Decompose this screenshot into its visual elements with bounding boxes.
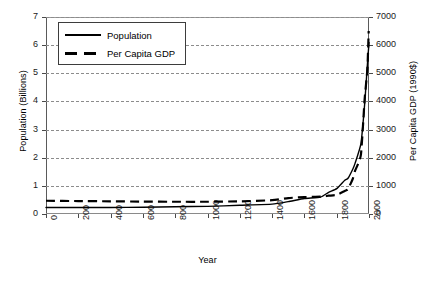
legend-label-per-capita-gdp: Per Capita GDP	[107, 48, 175, 59]
y-tick-right-label-7000: 7000	[376, 12, 410, 21]
chart-figure: Population (Billions) Per Capita GDP (19…	[0, 0, 435, 282]
x-tick-label-2000: 2000	[373, 200, 382, 220]
legend-item-population: Population	[65, 27, 152, 43]
chart-legend: Population Per Capita GDP	[58, 22, 186, 65]
x-tick-800	[175, 214, 176, 218]
y-tick-right-7000	[369, 17, 373, 18]
y-tick-left-label-0: 0	[8, 209, 38, 218]
x-axis-title: Year	[46, 255, 369, 265]
x-tick-2000	[369, 214, 370, 218]
x-tick-200	[78, 214, 79, 218]
x-tick-1600	[304, 214, 305, 218]
y-tick-right-2000	[369, 158, 373, 159]
y-tick-left-label-3: 3	[8, 125, 38, 134]
y-tick-right-5000	[369, 73, 373, 74]
y-tick-left-label-2: 2	[8, 153, 38, 162]
y-tick-right-6000	[369, 45, 373, 46]
x-tick-1800	[337, 214, 338, 218]
y-tick-right-label-4000: 4000	[376, 96, 410, 105]
y-tick-right-label-2000: 2000	[376, 153, 410, 162]
caption-strip	[0, 274, 435, 282]
y-tick-left-label-1: 1	[8, 181, 38, 190]
x-tick-1200	[240, 214, 241, 218]
y-tick-left-label-5: 5	[8, 68, 38, 77]
y-tick-left-label-6: 6	[8, 40, 38, 49]
y-tick-right-label-5000: 5000	[376, 68, 410, 77]
y-tick-right-label-1000: 1000	[376, 181, 410, 190]
legend-item-per-capita-gdp: Per Capita GDP	[65, 45, 175, 61]
legend-label-population: Population	[107, 30, 152, 41]
x-tick-600	[143, 214, 144, 218]
y-tick-left-label-4: 4	[8, 96, 38, 105]
y-tick-right-label-6000: 6000	[376, 40, 410, 49]
x-tick-0	[46, 214, 47, 218]
y-tick-right-1000	[369, 186, 373, 187]
x-tick-400	[111, 214, 112, 218]
y-tick-right-3000	[369, 130, 373, 131]
series-line-population	[46, 42, 369, 207]
y-tick-right-4000	[369, 101, 373, 102]
x-tick-1000	[208, 214, 209, 218]
y-tick-left-label-7: 7	[8, 12, 38, 21]
x-tick-label-0: 0	[50, 215, 59, 220]
x-tick-1400	[272, 214, 273, 218]
legend-swatch-solid-icon	[65, 30, 101, 40]
legend-swatch-dashed-icon	[65, 48, 101, 58]
y-tick-right-label-3000: 3000	[376, 125, 410, 134]
